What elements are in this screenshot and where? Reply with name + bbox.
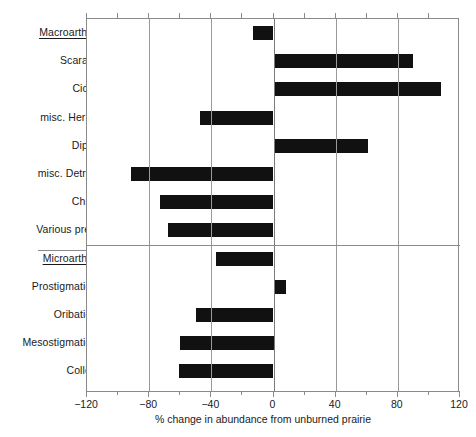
axis-tick <box>86 391 87 397</box>
axis-tick <box>241 13 242 18</box>
axis-tick <box>366 391 367 395</box>
axis-tick <box>335 391 336 397</box>
bar-row <box>87 301 458 329</box>
bar-row <box>87 104 458 132</box>
bar-row <box>87 357 458 385</box>
axis-tick <box>210 13 211 18</box>
bar-row <box>87 245 458 273</box>
axis-tick <box>397 13 398 18</box>
axis-tick <box>397 391 398 397</box>
x-axis-tick-labels: −120−80−4004080120 <box>0 398 476 412</box>
bar <box>180 336 273 350</box>
x-tick-label: −120 <box>74 398 98 410</box>
x-tick-label: 0 <box>270 398 276 410</box>
bar <box>216 252 274 266</box>
gridline <box>336 19 337 391</box>
x-tick-label: −80 <box>139 398 157 410</box>
bar <box>274 280 286 294</box>
gridline <box>149 19 150 391</box>
bar-row <box>87 188 458 216</box>
axis-tick <box>273 13 274 18</box>
axis-tick <box>117 391 118 395</box>
axis-tick <box>459 391 460 397</box>
group-divider-inner <box>87 245 460 246</box>
axis-tick <box>179 391 180 395</box>
zero-line <box>274 19 275 391</box>
axis-tick <box>148 391 149 397</box>
bar <box>168 223 274 237</box>
bar-row <box>87 273 458 301</box>
axis-tick <box>117 13 118 18</box>
axis-tick <box>179 13 180 18</box>
axis-tick <box>241 391 242 395</box>
bar <box>196 308 274 322</box>
bar <box>131 167 274 181</box>
bar-row <box>87 19 458 47</box>
bar-row <box>87 216 458 244</box>
axis-tick <box>148 13 149 18</box>
axis-tick <box>335 13 336 18</box>
bar <box>179 364 274 378</box>
bar <box>274 139 369 153</box>
bar-row <box>87 329 458 357</box>
plot-area <box>86 18 459 392</box>
group-divider <box>38 250 86 251</box>
bar-series <box>87 19 458 391</box>
axis-tick <box>428 391 429 395</box>
bar <box>274 82 442 96</box>
gridline <box>398 19 399 391</box>
axis-tick <box>273 391 274 397</box>
bar-row <box>87 75 458 103</box>
bar <box>253 26 273 40</box>
axis-tick <box>210 391 211 397</box>
bar <box>160 195 273 209</box>
x-tick-label: 120 <box>450 398 468 410</box>
axis-tick <box>304 13 305 18</box>
bar-row <box>87 132 458 160</box>
axis-tick <box>304 391 305 395</box>
x-tick-label: −40 <box>201 398 219 410</box>
bar-row <box>87 160 458 188</box>
x-axis-title: % change in abundance from unburned prai… <box>0 413 476 425</box>
x-tick-label: 40 <box>329 398 341 410</box>
gridline <box>211 19 212 391</box>
axis-tick <box>86 13 87 18</box>
bar-chart: MacroarthropodsScarabeidaeCicadidaemisc.… <box>0 0 476 437</box>
x-tick-label: 80 <box>391 398 403 410</box>
bar <box>274 54 414 68</box>
axis-tick <box>428 13 429 18</box>
axis-tick <box>366 13 367 18</box>
bar-row <box>87 47 458 75</box>
